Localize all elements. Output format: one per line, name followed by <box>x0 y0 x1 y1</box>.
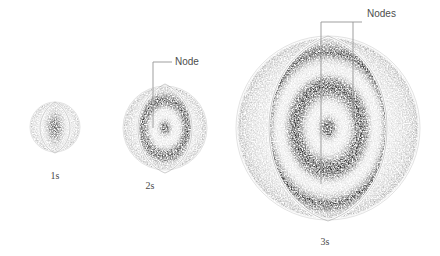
orbital-label-2s: 2s <box>130 176 170 192</box>
orbital-label-1s-text: 1s <box>51 170 60 181</box>
orbital-label-1s: 1s <box>35 166 75 182</box>
orbital-label-3s-text: 3s <box>321 236 330 247</box>
orbital-label-2s-text: 2s <box>146 180 155 191</box>
nodes-callout-3s <box>310 14 372 194</box>
node-label-2s: Node <box>175 57 199 67</box>
orbital-diagram-figure: 1s <box>0 0 440 256</box>
nodes-leader-line-3s <box>310 14 372 194</box>
nodes-label-3s: Nodes <box>367 9 396 19</box>
orbital-label-3s: 3s <box>305 232 345 248</box>
